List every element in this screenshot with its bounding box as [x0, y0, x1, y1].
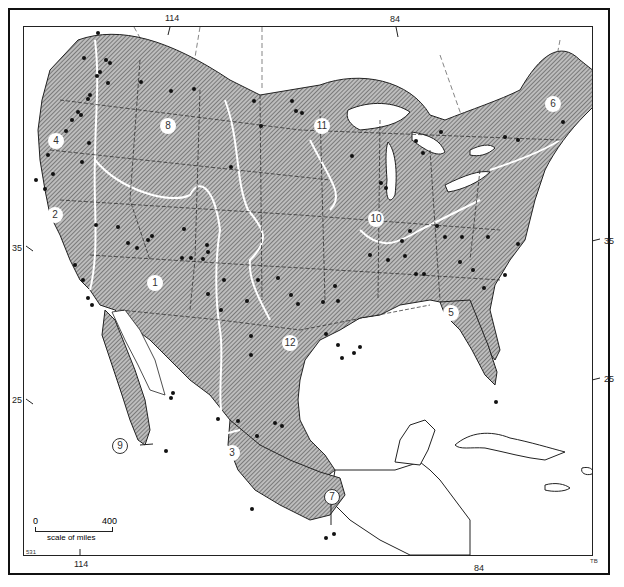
latitude-label-right-35: 35: [604, 236, 614, 246]
longitude-label-bottom-84: 84: [474, 563, 484, 573]
scale-caption: scale of miles: [47, 533, 95, 542]
region-9: 9: [112, 438, 128, 454]
region-6: 6: [545, 96, 561, 112]
scale-start-label: 0: [33, 516, 38, 526]
latitude-label-left-35: 35: [12, 243, 22, 253]
region-8: 8: [160, 118, 176, 134]
region-5: 5: [443, 305, 459, 321]
region-1: 1: [147, 275, 163, 291]
caribbean-outlines: [330, 420, 593, 555]
distribution-map: [0, 0, 624, 587]
longitude-label-top-84: 84: [390, 14, 400, 24]
scale-end-label: 400: [102, 516, 117, 526]
region-7: 7: [324, 489, 340, 505]
range-area: [38, 34, 605, 478]
longitude-label-top-114: 114: [165, 13, 179, 23]
scale-bar-line: [35, 527, 113, 532]
figure-code: 531: [26, 549, 36, 555]
region-11: 11: [314, 118, 330, 134]
region-10: 10: [368, 211, 384, 227]
latitude-label-right-25: 25: [604, 374, 614, 384]
region-4: 4: [48, 133, 64, 149]
region-2: 2: [47, 207, 63, 223]
region-12: 12: [282, 335, 298, 351]
longitude-label-bottom-114: 114: [74, 559, 88, 569]
artist-initials: TB: [590, 558, 598, 564]
region-3: 3: [224, 445, 240, 461]
latitude-label-left-25: 25: [12, 395, 22, 405]
